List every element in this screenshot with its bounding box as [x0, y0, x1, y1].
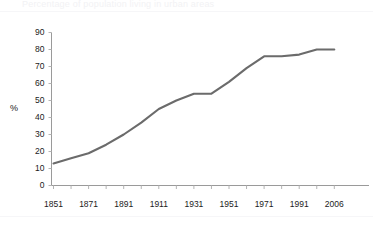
x-tick-label-1851: 1851 [34, 200, 74, 209]
x-tick-label-1871: 1871 [69, 200, 109, 209]
y-tick-label-30: 30 [21, 130, 45, 139]
x-tick-label-1971: 1971 [244, 200, 284, 209]
chart-figure: Percentage of population living in urban… [0, 0, 373, 227]
x-tick-label-1911: 1911 [139, 200, 179, 209]
line-chart-plot [0, 0, 373, 227]
x-tick-label-2006: 2006 [314, 200, 354, 209]
data-series-line [54, 50, 335, 164]
y-tick-label-80: 80 [21, 45, 45, 54]
y-tick-label-10: 10 [21, 164, 45, 173]
x-tick-label-1891: 1891 [104, 200, 144, 209]
x-tick-label-1991: 1991 [279, 200, 319, 209]
x-tick-label-1951: 1951 [209, 200, 249, 209]
y-tick-label-50: 50 [21, 96, 45, 105]
y-tick-label-90: 90 [21, 28, 45, 37]
y-tick-label-40: 40 [21, 113, 45, 122]
y-tick-label-0: 0 [21, 181, 45, 190]
y-tick-label-70: 70 [21, 62, 45, 71]
y-tick-label-60: 60 [21, 79, 45, 88]
y-tick-label-20: 20 [21, 147, 45, 156]
x-tick-label-1931: 1931 [174, 200, 214, 209]
axis-group [52, 33, 370, 186]
